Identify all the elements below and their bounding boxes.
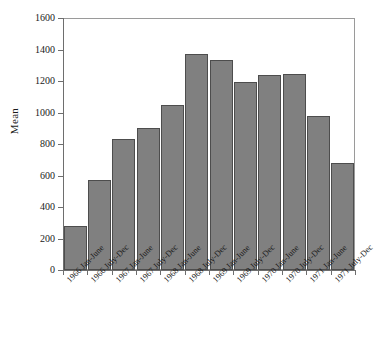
x-axis-tick bbox=[136, 271, 137, 275]
x-axis-tick bbox=[355, 271, 356, 275]
x-axis-tick bbox=[87, 271, 88, 275]
x-axis-tick bbox=[63, 271, 64, 275]
y-axis-tick-label: 1600 bbox=[35, 13, 55, 23]
x-axis-tick bbox=[331, 271, 332, 275]
y-axis-tick-label: 0 bbox=[50, 265, 55, 275]
bar[interactable] bbox=[283, 74, 306, 270]
x-axis-tick bbox=[112, 271, 113, 275]
y-axis-tick-label: 1200 bbox=[35, 76, 55, 86]
y-axis-tick-label: 600 bbox=[40, 171, 55, 181]
y-axis-tick-label: 200 bbox=[40, 234, 55, 244]
bar[interactable] bbox=[258, 75, 281, 270]
bar[interactable] bbox=[234, 82, 257, 270]
x-axis-tick bbox=[282, 271, 283, 275]
x-axis-tick bbox=[185, 271, 186, 275]
y-axis-title: Mean bbox=[8, 86, 20, 156]
x-axis-tick bbox=[209, 271, 210, 275]
y-axis-tick-label: 1000 bbox=[35, 108, 55, 118]
y-axis-tick-label: 1400 bbox=[35, 45, 55, 55]
x-axis-tick bbox=[233, 271, 234, 275]
y-axis-tick-label: 800 bbox=[40, 139, 55, 149]
bar[interactable] bbox=[185, 54, 208, 270]
x-axis-tick bbox=[160, 271, 161, 275]
y-axis-tick-label: 400 bbox=[40, 202, 55, 212]
x-axis-tick bbox=[258, 271, 259, 275]
bar[interactable] bbox=[210, 60, 233, 270]
x-axis-tick bbox=[306, 271, 307, 275]
bars-container bbox=[63, 18, 355, 270]
bar-chart: Mean 02004006008001000120014001600 1966 … bbox=[0, 0, 389, 339]
